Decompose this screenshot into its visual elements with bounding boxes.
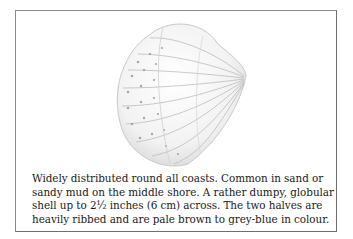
shell-outline: [117, 24, 246, 166]
cockle-shell-illustration: [108, 14, 253, 170]
caption-line: heavily ribbed and are pale brown to gre…: [32, 213, 332, 227]
caption-line: Widely distributed round all coasts. Com…: [32, 172, 332, 186]
caption-line: shell up to 2½ inches (6 cm) across. The…: [32, 199, 332, 213]
caption-line: sandy mud on the middle shore. A rather …: [32, 186, 332, 200]
caption-text: Widely distributed round all coasts. Com…: [32, 172, 332, 226]
